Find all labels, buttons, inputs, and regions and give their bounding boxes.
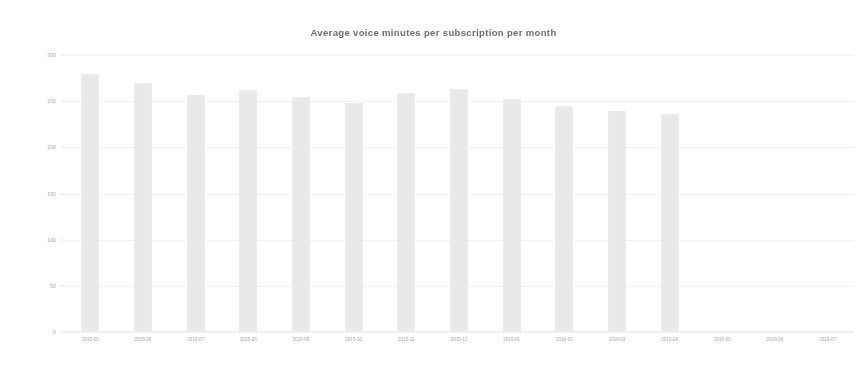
plot-area — [64, 55, 854, 332]
bar[interactable] — [134, 83, 152, 332]
x-tick-label: 2015-12 — [451, 337, 468, 342]
x-tick-label: 2016-07 — [819, 337, 836, 342]
x-axis: 2015-052015-062015-072015-082015-092015-… — [64, 334, 854, 352]
x-tick-label: 2016-05 — [714, 337, 731, 342]
x-tick-label: 2015-05 — [82, 337, 99, 342]
x-tick-label: 2015-10 — [345, 337, 362, 342]
bar[interactable] — [292, 97, 310, 332]
bar[interactable] — [397, 93, 415, 332]
bar[interactable] — [239, 90, 257, 332]
bar[interactable] — [450, 89, 468, 332]
bar[interactable] — [503, 99, 521, 332]
x-tick-label: 2015-06 — [135, 337, 152, 342]
bar[interactable] — [187, 95, 205, 332]
x-tick-label: 2015-08 — [240, 337, 257, 342]
bar[interactable] — [555, 106, 573, 332]
x-tick-label: 2015-09 — [293, 337, 310, 342]
y-tick-label: 300 — [47, 52, 56, 58]
x-tick-label: 2016-04 — [661, 337, 678, 342]
chart-container: Average voice minutes per subscription p… — [0, 0, 867, 372]
chart-title: Average voice minutes per subscription p… — [0, 27, 867, 38]
bar[interactable] — [81, 74, 99, 332]
y-tick-label: 200 — [47, 144, 56, 150]
x-tick-label: 2015-11 — [398, 337, 415, 342]
bar[interactable] — [661, 114, 679, 332]
y-axis: 050100150200250300 — [0, 55, 64, 332]
y-tick-label: 250 — [47, 98, 56, 104]
x-tick-label: 2016-02 — [556, 337, 573, 342]
y-tick-label: 100 — [47, 237, 56, 243]
y-tick-label: 50 — [50, 283, 56, 289]
bar[interactable] — [345, 103, 363, 332]
x-tick-label: 2016-01 — [503, 337, 520, 342]
gridline — [64, 332, 854, 333]
x-tick-label: 2016-03 — [609, 337, 626, 342]
y-tick-label: 0 — [53, 329, 56, 335]
y-tick-label: 150 — [47, 191, 56, 197]
x-tick-label: 2016-06 — [767, 337, 784, 342]
x-tick-label: 2015-07 — [187, 337, 204, 342]
gridline — [64, 55, 854, 56]
bar[interactable] — [608, 111, 626, 332]
